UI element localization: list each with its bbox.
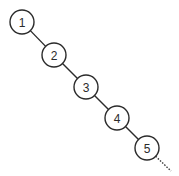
tree-node-4: 4 (105, 106, 129, 130)
edge-1-2 (30, 31, 45, 47)
tree-diagram: 12345 (0, 0, 179, 176)
node-label: 3 (83, 81, 90, 95)
tree-diagram-svg: 12345 (0, 0, 179, 176)
edge-4-5 (125, 126, 138, 139)
edge-3-4 (94, 95, 108, 109)
tree-node-5: 5 (135, 136, 159, 160)
tree-node-2: 2 (42, 43, 66, 67)
tree-node-1: 1 (10, 10, 34, 34)
tree-node-3: 3 (74, 75, 98, 99)
node-label: 4 (114, 112, 121, 126)
node-label: 1 (19, 16, 26, 30)
node-label: 2 (51, 49, 58, 63)
continuation-edge (156, 156, 171, 171)
edge-2-3 (62, 63, 77, 78)
node-label: 5 (144, 142, 151, 156)
